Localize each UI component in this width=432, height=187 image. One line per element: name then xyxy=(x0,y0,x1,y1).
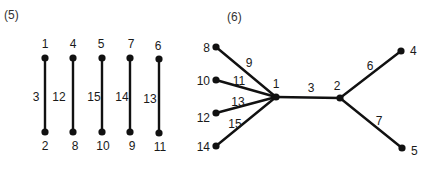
f6-node-label-14: 14 xyxy=(197,140,211,154)
figure-6-caption: (6) xyxy=(227,10,242,24)
f6-edge-label-7: 7 xyxy=(376,114,383,128)
f6-edge-label-6: 6 xyxy=(367,59,374,73)
figure-6-graph: 911131536712458101214 xyxy=(197,41,418,158)
figure-5-graph: 312151413124851079611 xyxy=(33,37,167,154)
f5-node-2 xyxy=(41,128,48,135)
f6-node-label-5: 5 xyxy=(411,144,418,158)
diagram-canvas: (5) (6) 312151413124851079611 9111315367… xyxy=(0,0,432,187)
f5-edge-label-3: 3 xyxy=(33,90,40,104)
f6-edge-label-9: 9 xyxy=(246,56,253,70)
f5-node-9 xyxy=(126,128,133,135)
f5-node-5 xyxy=(98,54,105,61)
f5-node-label-8: 8 xyxy=(72,139,79,153)
f6-node-2 xyxy=(336,94,343,101)
f5-node-4 xyxy=(69,54,76,61)
f6-node-label-8: 8 xyxy=(203,41,210,55)
f5-edge-label-12: 12 xyxy=(52,90,66,104)
f5-node-8 xyxy=(69,128,76,135)
f6-node-12 xyxy=(212,109,219,116)
f6-edge-label-15: 15 xyxy=(228,117,242,131)
f6-edge-label-3: 3 xyxy=(308,81,315,95)
f5-node-7 xyxy=(126,54,133,61)
f5-node-1 xyxy=(41,54,48,61)
f5-node-label-1: 1 xyxy=(42,37,49,51)
f6-node-8 xyxy=(212,43,219,50)
f6-node-5 xyxy=(398,144,405,151)
f5-node-label-5: 5 xyxy=(98,37,105,51)
f5-edge-label-13: 13 xyxy=(143,92,157,106)
f5-node-11 xyxy=(155,129,162,136)
f6-node-14 xyxy=(212,142,219,149)
f5-node-6 xyxy=(155,55,162,62)
f6-node-1 xyxy=(272,93,279,100)
f6-node-4 xyxy=(397,47,404,54)
f5-node-label-11: 11 xyxy=(154,140,167,154)
f5-edge-label-15: 15 xyxy=(87,90,101,104)
f6-node-label-10: 10 xyxy=(197,74,211,88)
figure-5-caption: (5) xyxy=(4,8,19,22)
f5-node-label-9: 9 xyxy=(129,139,136,153)
f6-edge-label-11: 11 xyxy=(233,74,246,88)
f5-node-label-2: 2 xyxy=(42,139,49,153)
f6-node-10 xyxy=(212,76,219,83)
f6-node-label-2: 2 xyxy=(334,79,341,93)
f6-node-label-1: 1 xyxy=(273,77,280,91)
f5-node-label-4: 4 xyxy=(70,37,77,51)
f6-node-label-12: 12 xyxy=(197,111,211,125)
f5-node-label-10: 10 xyxy=(96,139,110,153)
f6-node-label-4: 4 xyxy=(410,44,417,58)
f5-node-10 xyxy=(98,128,105,135)
f5-edge-label-14: 14 xyxy=(115,90,129,104)
f6-edge-label-13: 13 xyxy=(231,95,245,109)
f5-node-label-6: 6 xyxy=(155,39,162,53)
f6-edge-2-5 xyxy=(340,98,402,148)
f5-node-label-7: 7 xyxy=(128,37,135,51)
f6-edge-1-2 xyxy=(276,97,340,98)
